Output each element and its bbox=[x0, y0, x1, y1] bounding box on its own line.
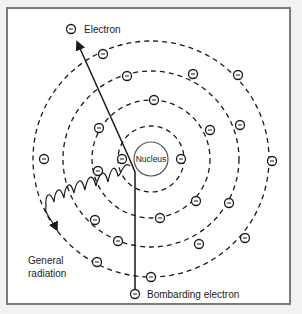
general-radiation-label-1: General bbox=[28, 255, 64, 266]
trajectories bbox=[46, 44, 135, 289]
nucleus-label: Nucleus bbox=[136, 154, 167, 164]
nucleus: Nucleus bbox=[134, 142, 168, 176]
bombarding-electron-path bbox=[130, 160, 135, 289]
bombarding-electron-label: Bombarding electron bbox=[147, 289, 239, 300]
ejected-electron-arrow bbox=[78, 44, 130, 160]
bremsstrahlung-diagram: Nucleus Electron General radiation Bomba… bbox=[0, 0, 302, 314]
general-radiation-label-2: radiation bbox=[28, 268, 66, 279]
general-radiation-wave bbox=[46, 165, 130, 228]
electron-label: Electron bbox=[84, 24, 121, 35]
